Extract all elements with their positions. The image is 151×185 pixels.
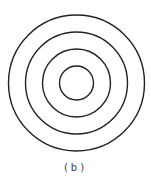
circle-ring-3 [43,49,111,117]
concentric-circles-diagram [0,0,151,160]
circle-ring-2 [26,32,128,134]
circle-ring-1 [9,15,145,151]
figure-caption: (b) [0,162,151,173]
circle-ring-4 [60,66,94,100]
